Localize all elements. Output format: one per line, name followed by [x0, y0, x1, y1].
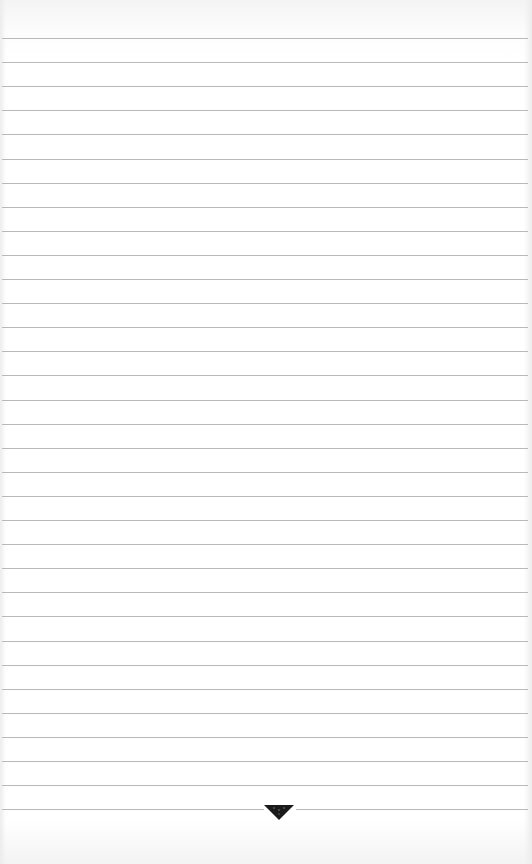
page-right-edge-shadow [524, 0, 532, 864]
ruled-line [2, 520, 528, 521]
ruled-line [2, 713, 528, 714]
ruled-line [2, 183, 528, 184]
ruled-line [2, 616, 528, 617]
ruled-line [2, 351, 528, 352]
ruled-line [2, 38, 528, 39]
ruled-line [296, 809, 528, 810]
ruled-line [2, 207, 528, 208]
ruled-line [2, 785, 528, 786]
ruled-line [2, 110, 528, 111]
ruled-line [2, 472, 528, 473]
ruled-line [2, 641, 528, 642]
ruled-line [2, 689, 528, 690]
ruled-line [2, 761, 528, 762]
ruled-line [2, 448, 528, 449]
ruled-line [2, 303, 528, 304]
ruled-line [2, 400, 528, 401]
ruled-line [2, 424, 528, 425]
ruled-line [2, 737, 528, 738]
ruled-line [2, 375, 528, 376]
ruled-line [2, 665, 528, 666]
ruled-line [2, 279, 528, 280]
ruled-line [2, 568, 528, 569]
page-left-edge-shadow [0, 0, 6, 864]
ruled-line [2, 592, 528, 593]
ruled-line [2, 62, 528, 63]
ruled-line [2, 496, 528, 497]
ruled-line [2, 809, 264, 810]
notepad-page [0, 0, 532, 864]
ruled-line [2, 231, 528, 232]
inverted-triangle-ornament-icon [264, 804, 294, 821]
ruled-line [2, 134, 528, 135]
ruled-line [2, 327, 528, 328]
ruled-line [2, 255, 528, 256]
ruled-line [2, 544, 528, 545]
ruled-line [2, 86, 528, 87]
ruled-line [2, 159, 528, 160]
